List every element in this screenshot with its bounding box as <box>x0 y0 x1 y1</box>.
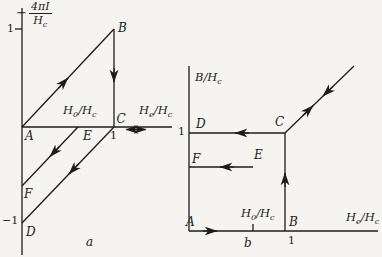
plot-a-point-C: C <box>117 113 126 125</box>
plot-a-ytick-label-1: 1 <box>7 23 14 34</box>
plot-a-label-H0-Hc: H0/Hc <box>63 105 97 119</box>
plot-b-point-D: D <box>196 118 206 130</box>
plot-a-ytick-label-neg1: −1 <box>2 215 18 226</box>
plot-a-arrow-A-B <box>58 78 68 88</box>
plot-a-line-C-D <box>22 127 114 223</box>
plot-a-x-axis-label-He-Hc: He/Hc <box>139 105 172 119</box>
plot-b-caption: b <box>244 237 252 249</box>
plot-a-point-B: B <box>118 22 127 34</box>
plot-a-arrow-C-D <box>69 164 79 174</box>
plot-b-x-axis-label-He-Hc: He/Hc <box>346 212 379 226</box>
plot-b-point-A: A <box>186 216 195 228</box>
plot-a-point-F: F <box>24 188 32 200</box>
plot-b-line-C-normal <box>285 66 354 133</box>
plot-a-xtick-label-1: 1 <box>110 130 117 141</box>
plot-b-y-axis-label-B-Hc: B/Hc <box>195 72 222 86</box>
plot-b-point-E: E <box>254 149 263 161</box>
plot-a-y-label-minus: − <box>16 6 27 19</box>
plot-b-label-H0-Hc: H0/Hc <box>241 208 275 222</box>
plot-b-point-C: C <box>275 116 284 128</box>
plot-a-y-label-denominator: Hc <box>29 13 52 29</box>
figure-hysteresis-diagrams: − 4πI Hc 1 −1 1 B C A E F D H0/Hc He/Hc … <box>0 0 382 257</box>
plot-a-point-D: D <box>26 226 36 238</box>
plot-a-y-label-numerator: 4πI <box>29 1 52 13</box>
plot-a-point-A: A <box>25 130 34 142</box>
plot-a-y-axis-label: 4πI Hc <box>29 1 52 29</box>
plot-b-point-B: B <box>289 216 298 228</box>
plot-b-point-F: F <box>192 153 200 165</box>
plot-b-xtick-label-1: 1 <box>288 235 295 246</box>
plot-b-arrow-diag-up <box>303 106 313 116</box>
plot-a-arrow-E-F <box>50 146 60 156</box>
plot-a-caption: a <box>86 236 93 248</box>
plot-a-point-E: E <box>83 130 92 142</box>
plot-b-ytick-label-1: 1 <box>178 126 185 137</box>
plot-b-arrow-diag-down <box>323 86 333 96</box>
